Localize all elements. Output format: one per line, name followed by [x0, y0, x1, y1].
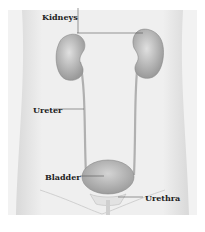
label-bladder: Bladder — [45, 172, 80, 182]
label-urethra: Urethra — [145, 193, 180, 203]
label-kidneys: Kidneys — [42, 12, 78, 22]
right-kidney — [133, 29, 164, 78]
label-ureter: Ureter — [33, 105, 62, 115]
urinary-system-diagram: Kidneys Ureter Bladder Urethra — [0, 0, 205, 232]
bladder — [82, 160, 134, 194]
